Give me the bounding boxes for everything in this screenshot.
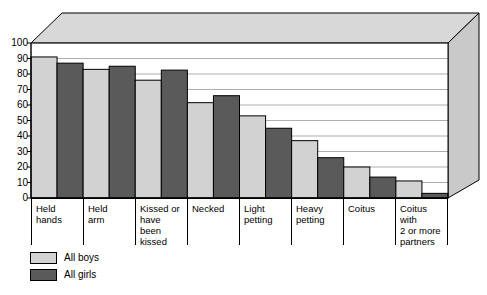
bar bbox=[240, 116, 266, 198]
legend-swatch bbox=[30, 269, 57, 281]
legend-item: All girls bbox=[30, 269, 99, 281]
x-axis-category-label: Coitus bbox=[343, 199, 395, 245]
bar bbox=[292, 141, 318, 198]
x-axis-category-label: Lightpetting bbox=[239, 199, 291, 245]
chart-canvas bbox=[0, 0, 487, 295]
x-axis-category-label: Heldarm bbox=[83, 199, 135, 245]
x-axis-category-labels: HeldhandsHeldarmKissed orhave beenkissed… bbox=[31, 198, 448, 245]
chart-box-side-face bbox=[448, 13, 479, 198]
x-axis-category-label: Kissed orhave beenkissed bbox=[135, 199, 187, 245]
x-axis-category-label-line: Kissed or bbox=[140, 203, 184, 214]
x-axis-category-label-line: partners bbox=[400, 236, 444, 247]
x-axis-category-label-line: kissed bbox=[140, 236, 184, 247]
x-axis-category-label-line: have been bbox=[140, 214, 184, 236]
x-axis-category-label-line: petting bbox=[244, 214, 288, 225]
bar bbox=[370, 177, 396, 198]
chart-legend: All boysAll girls bbox=[30, 252, 99, 286]
x-axis-category-label-line: arm bbox=[88, 214, 132, 225]
x-axis-category-label: Necked bbox=[187, 199, 239, 245]
x-axis-category-label-line: Coitus with bbox=[400, 203, 444, 225]
bar bbox=[318, 158, 344, 198]
x-axis-category-label-line: Held bbox=[36, 203, 80, 214]
bar bbox=[266, 128, 292, 198]
x-axis-category-label-line: Light bbox=[244, 203, 288, 214]
x-axis-category-label-line: Coitus bbox=[348, 203, 392, 214]
x-axis-category-label: Coitus with2 or morepartners bbox=[395, 199, 448, 245]
x-axis-category-label: Heldhands bbox=[31, 199, 83, 245]
legend-swatch bbox=[30, 252, 57, 264]
bar bbox=[213, 96, 239, 198]
x-axis-category-label-line: 2 or more bbox=[400, 225, 444, 236]
bar bbox=[83, 69, 109, 198]
chart-box-top-face bbox=[31, 13, 479, 43]
x-axis-category-label-line: Heavy bbox=[296, 203, 340, 214]
bar bbox=[135, 80, 161, 198]
legend-label: All girls bbox=[64, 269, 96, 281]
x-axis-category-label: Heavypetting bbox=[291, 199, 343, 245]
x-axis-category-label-line: petting bbox=[296, 214, 340, 225]
x-axis-category-label-line: Held bbox=[88, 203, 132, 214]
legend-item: All boys bbox=[30, 252, 99, 264]
bar bbox=[161, 70, 187, 198]
bar bbox=[344, 167, 370, 198]
bar bbox=[187, 103, 213, 198]
bar bbox=[396, 181, 422, 198]
bar-chart: 0102030405060708090100 HeldhandsHeldarmK… bbox=[0, 0, 487, 295]
legend-label: All boys bbox=[64, 252, 99, 264]
x-axis-category-label-line: hands bbox=[36, 214, 80, 225]
bar bbox=[109, 66, 135, 198]
bar bbox=[31, 57, 57, 198]
x-axis-category-label-line: Necked bbox=[192, 203, 236, 214]
bar bbox=[57, 63, 83, 198]
